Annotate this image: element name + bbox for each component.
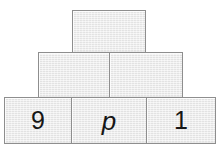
pyramid-block-bottom-1-label: 9	[31, 108, 45, 133]
pyramid-block-bottom-1: 9	[4, 97, 72, 144]
pyramid-block-bottom-3-label: 1	[174, 108, 188, 133]
pyramid-block-bottom-2: p	[71, 97, 147, 144]
block-pyramid-figure: 9 p 1	[0, 0, 222, 155]
pyramid-block-middle-2	[109, 52, 183, 98]
pyramid-block-bottom-3: 1	[146, 97, 216, 144]
pyramid-block-bottom-2-label: p	[102, 108, 117, 134]
pyramid-block-middle-1	[38, 52, 110, 98]
pyramid-block-top-1	[72, 10, 146, 53]
